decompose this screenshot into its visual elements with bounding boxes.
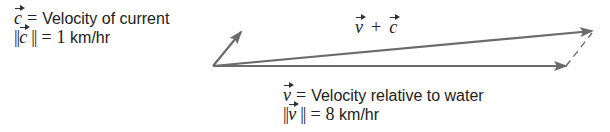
velocity-magnitude: ||v||=8 km/hr xyxy=(283,105,484,124)
velocity-magnitude-value: 8 xyxy=(326,104,335,124)
equals-sign: = xyxy=(310,104,320,124)
current-definition: c=Velocity of current xyxy=(14,9,169,28)
equals-sign: = xyxy=(41,27,51,47)
resultant-vector-arrow xyxy=(213,31,592,66)
current-label: c=Velocity of current ||c||=1 km/hr xyxy=(14,9,169,47)
current-symbol: c xyxy=(14,9,22,28)
velocity-symbol: v xyxy=(355,18,363,37)
velocity-symbol: v xyxy=(283,86,291,105)
translated-current-dashed-line xyxy=(566,33,592,66)
current-vector-arrow xyxy=(213,32,241,66)
plus-sign: + xyxy=(371,17,381,37)
current-symbol: c xyxy=(389,18,397,37)
velocity-label: v=Velocity relative to water ||v||=8 km/… xyxy=(283,86,484,124)
norm-close: || xyxy=(300,104,305,124)
velocity-symbol: v xyxy=(288,105,296,124)
resultant-label: v+c xyxy=(355,18,397,37)
velocity-magnitude-unit: km/hr xyxy=(339,106,379,123)
current-magnitude-unit: km/hr xyxy=(70,29,110,46)
current-magnitude-value: 1 xyxy=(57,27,66,47)
velocity-description: Velocity relative to water xyxy=(311,87,484,104)
current-symbol: c xyxy=(19,28,27,47)
current-description: Velocity of current xyxy=(42,10,169,27)
norm-close: || xyxy=(31,27,36,47)
velocity-definition: v=Velocity relative to water xyxy=(283,86,484,105)
current-magnitude: ||c||=1 km/hr xyxy=(14,28,169,47)
